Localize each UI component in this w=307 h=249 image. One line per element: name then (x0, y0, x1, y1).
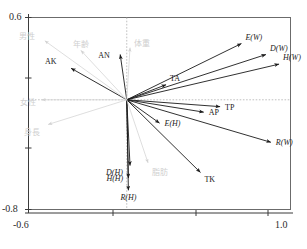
vector-arrow (127, 48, 130, 100)
vector-label: 体重 (134, 37, 150, 48)
vector-arrow (120, 55, 127, 100)
vector-arrow (127, 100, 220, 107)
vector-label: H(H) (106, 174, 123, 183)
x-axis-min-tick-label: -0.6 (13, 219, 29, 230)
y-axis-min-tick-label: -0.8 (2, 203, 18, 214)
vector-label: 男性 (19, 30, 35, 41)
vector-arrow (45, 41, 127, 100)
vector-arrow (127, 100, 148, 163)
vector-label: AP (209, 108, 219, 117)
outer-axes (25, 14, 293, 216)
vector-arrow (127, 44, 242, 100)
plot-frame (29, 18, 291, 210)
vector-arrow (127, 100, 204, 112)
vector-label: 脂肪 (152, 166, 168, 177)
vector-label: H(W) (283, 53, 301, 62)
chart-root: E(W)D(W)H(W)TPAPR(W)TKE(H)D(H)H(H)R(H)AK… (0, 0, 307, 249)
y-axis-max-tick-label: 0.6 (9, 11, 22, 22)
vector-label: TA (170, 74, 180, 83)
vector-label: R(H) (120, 193, 136, 202)
x-axis-max-tick-label: 1.0 (275, 219, 288, 230)
vector-arrow (71, 68, 127, 100)
vector-label: 身長 (24, 126, 40, 137)
vector-label: TK (204, 175, 215, 184)
vector-label: R(W) (276, 138, 293, 147)
vector-arrow (48, 100, 127, 125)
vector-label: 年齢 (73, 38, 89, 49)
vector-label: AK (45, 57, 57, 66)
vector-arrow (127, 100, 160, 123)
vector-label: D(W) (270, 44, 288, 53)
vector-label: AN (98, 51, 110, 60)
vector-label: E(W) (245, 33, 262, 42)
zero-reference-lines (29, 18, 291, 210)
vector-label: 女性 (20, 96, 36, 107)
vector-label: E(H) (165, 119, 181, 128)
vector-arrow (127, 64, 279, 100)
vector-label: TP (225, 103, 234, 112)
vector-arrow (127, 55, 266, 100)
